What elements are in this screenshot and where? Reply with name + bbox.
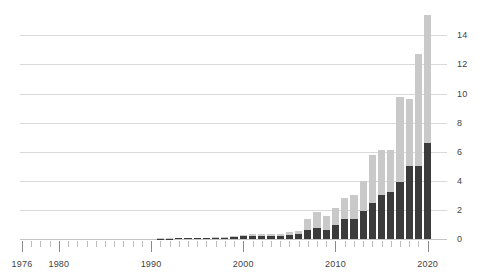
bar-segment-light [396,97,403,181]
x-axis-minor-tick [234,241,235,247]
bar[interactable] [175,238,182,239]
gridline [20,94,447,95]
bar[interactable] [387,150,394,239]
bar[interactable] [323,216,330,239]
bar-segment-dark [221,238,228,239]
bar[interactable] [369,155,376,239]
bar[interactable] [240,235,247,239]
x-axis-minor-tick [188,241,189,247]
bar[interactable] [332,208,339,239]
x-axis-tick-label: 1980 [39,260,79,269]
bar-segment-dark [304,230,311,239]
bar[interactable] [157,238,164,239]
bar-segment-dark [258,236,265,239]
bar[interactable] [295,231,302,239]
bar-segment-dark [184,238,191,239]
bar-segment-light [387,150,394,191]
x-axis-minor-tick [142,241,143,247]
bar-segment-light [406,99,413,166]
bar-segment-light [378,150,385,194]
bar-segment-light [341,198,348,218]
bar-segment-dark [323,230,330,239]
x-axis-minor-tick [345,241,346,247]
x-axis-minor-tick [68,241,69,247]
bar[interactable] [194,238,201,239]
x-axis-minor-tick [289,241,290,247]
x-axis-minor-tick [299,241,300,247]
bar-segment-light [360,181,367,211]
x-axis-minor-tick [308,241,309,247]
bar[interactable] [230,236,237,239]
bar[interactable] [212,237,219,239]
x-axis-minor-tick [77,241,78,247]
x-axis-minor-tick [409,241,410,247]
bar-segment-light [332,208,339,225]
bar[interactable] [258,234,265,239]
x-axis-minor-tick [372,241,373,247]
x-axis-tick-label: 2010 [315,260,355,269]
bar[interactable] [378,150,385,239]
x-axis-minor-tick [133,241,134,247]
bar-segment-dark [369,203,376,239]
bar-segment-dark [230,237,237,239]
bar-segment-dark [424,143,431,239]
x-axis-minor-tick [50,241,51,247]
y-axis-tick-label: 14 [457,31,467,40]
x-axis-minor-tick [354,241,355,247]
x-axis-tick-label: 2020 [408,260,448,269]
x-axis-tick-label: 1990 [131,260,171,269]
bar[interactable] [406,99,413,239]
bar[interactable] [396,97,403,239]
bar[interactable] [360,181,367,239]
x-axis-minor-tick [400,241,401,247]
bar-segment-dark [175,238,182,239]
plot-area: 02468101214197619801990200020102020 [0,0,483,280]
bar-segment-dark [378,195,385,239]
bar-segment-light [350,195,357,219]
bar[interactable] [341,198,348,239]
bar-segment-light [304,219,311,230]
x-axis-minor-tick [271,241,272,247]
bar-segment-dark [194,238,201,239]
gridline [20,35,447,36]
x-axis-tick-label: 1976 [2,260,42,269]
x-axis-minor-tick [418,241,419,247]
x-axis-minor-tick [391,241,392,247]
bar-segment-dark [267,236,274,239]
bar[interactable] [415,54,422,239]
x-axis-minor-tick [216,241,217,247]
bar-segment-dark [286,235,293,239]
x-axis-minor-tick [105,241,106,247]
x-axis-minor-tick [326,241,327,247]
bar[interactable] [249,234,256,239]
bar-segment-dark [396,182,403,239]
bar[interactable] [424,15,431,239]
x-axis-major-tick [22,241,23,252]
bar[interactable] [313,212,320,239]
y-axis-tick-label: 4 [457,177,462,186]
bar[interactable] [304,219,311,239]
bar-segment-dark [415,166,422,239]
bar[interactable] [277,234,284,239]
bar-segment-dark [387,192,394,239]
bar[interactable] [166,238,173,239]
bar-chart: 02468101214197619801990200020102020 [0,0,483,280]
bar-segment-light [369,155,376,203]
bar[interactable] [203,238,210,239]
bar-segment-dark [240,236,247,239]
bar[interactable] [286,232,293,239]
x-axis-major-tick [59,241,60,252]
x-axis-minor-tick [280,241,281,247]
x-axis-tick-label: 2000 [223,260,263,269]
bar[interactable] [350,195,357,239]
bar[interactable] [267,234,274,239]
x-axis-baseline [20,239,447,240]
bar-segment-dark [313,228,320,239]
x-axis-minor-tick [96,241,97,247]
bar-segment-dark [360,211,367,239]
gridline [20,64,447,65]
x-axis-major-tick [428,241,429,252]
bar-segment-dark [341,219,348,239]
bar[interactable] [221,237,228,239]
bar[interactable] [184,238,191,239]
